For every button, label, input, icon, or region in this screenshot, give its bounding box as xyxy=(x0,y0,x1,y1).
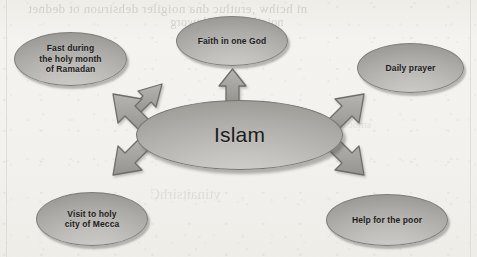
node-visit-mecca-label: Visit to holy city of Mecca xyxy=(65,209,120,230)
node-visit-mecca[interactable]: Visit to holy city of Mecca xyxy=(36,192,148,246)
node-daily-prayer-label: Daily prayer xyxy=(386,63,436,74)
arrow-up-to-faith xyxy=(219,69,246,102)
node-help-for-the-poor[interactable]: Help for the poor xyxy=(326,194,448,246)
node-fast-ramadan-label: Fast during the holy month of Ramadan xyxy=(39,43,101,75)
node-daily-prayer[interactable]: Daily prayer xyxy=(357,43,464,93)
concept-map-diagram: Islam Fast during the holy month of Rama… xyxy=(0,0,477,257)
node-faith-in-one-god-label: Faith in one God xyxy=(198,36,267,47)
node-islam[interactable]: Islam xyxy=(136,100,343,170)
node-fast-ramadan[interactable]: Fast during the holy month of Ramadan xyxy=(14,32,127,86)
node-faith-in-one-god[interactable]: Faith in one God xyxy=(176,16,288,66)
node-islam-label: Islam xyxy=(214,124,265,146)
node-help-for-the-poor-label: Help for the poor xyxy=(352,215,422,226)
